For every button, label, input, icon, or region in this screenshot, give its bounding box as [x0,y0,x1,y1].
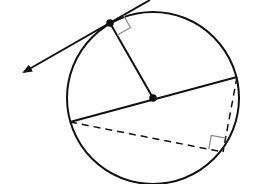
radius-to-tangent [110,23,153,98]
center-point [149,94,157,102]
geometry-diagram [0,0,254,184]
dashed-chord-right [223,77,237,152]
dashed-chord-left [70,122,223,152]
tangent-point [106,19,114,27]
